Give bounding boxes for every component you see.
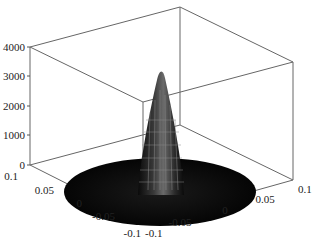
z-tick-label: 4000 <box>3 41 26 53</box>
y-tick-label: 0 <box>222 204 228 216</box>
y-tick-label: -0.05 <box>169 216 192 228</box>
z-tick-label: 3000 <box>3 70 26 82</box>
surface-plot-figure: 4000 3000 2000 1000 0 0.1 0.05 0 -0.05 -… <box>0 0 314 243</box>
x-tick-label: 0.1 <box>4 170 18 182</box>
x-tick-label: 0.05 <box>35 184 55 196</box>
x-tick-label: 0 <box>77 197 83 209</box>
z-tick-label: 1000 <box>3 129 26 141</box>
y-tick-label: 0.05 <box>255 193 275 205</box>
y-tick-label: 0.1 <box>298 183 312 195</box>
z-tick-label: 2000 <box>3 100 26 112</box>
plot-canvas: 4000 3000 2000 1000 0 0.1 0.05 0 -0.05 -… <box>0 0 314 243</box>
peak-surface <box>138 71 184 195</box>
x-tick-label: -0.05 <box>92 210 115 222</box>
x-tick-label: -0.1 <box>124 227 141 239</box>
z-tick-label: 0 <box>20 159 26 171</box>
y-tick-label: -0.1 <box>145 227 162 239</box>
